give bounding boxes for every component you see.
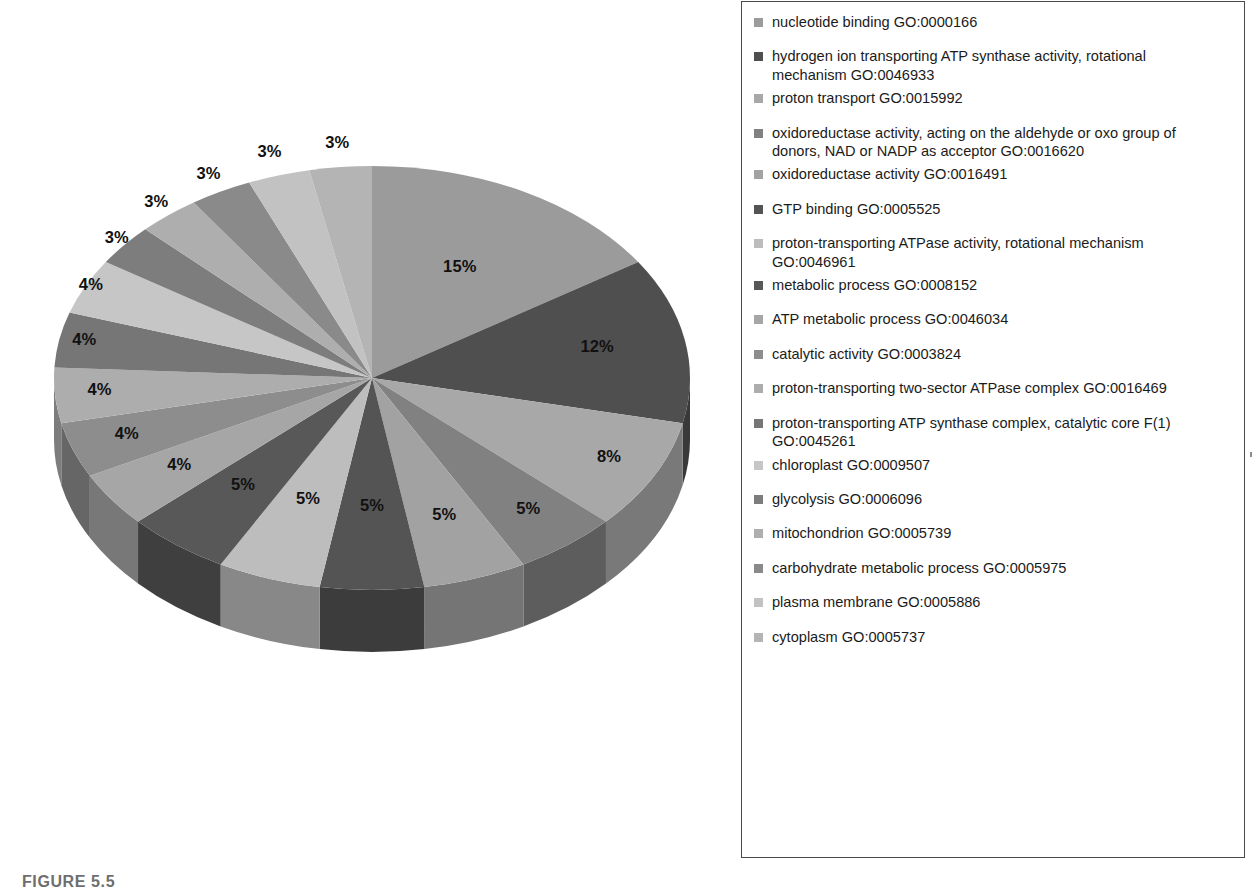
legend-item: cytoplasm GO:0005737 [754,628,1234,646]
pie-slice-side [320,587,425,652]
legend-color-swatch-icon [754,564,763,573]
legend-item-label: proton-transporting ATP synthase complex… [772,414,1224,451]
legend-item: mitochondrion GO:0005739 [754,524,1234,542]
legend-color-swatch-icon [754,18,763,27]
legend-color-swatch-icon [754,239,763,248]
legend-item: proton transport GO:0015992 [754,89,1234,107]
legend-item: oxidoreductase activity GO:0016491 [754,165,1234,183]
legend-list: nucleotide binding GO:0000166hydrogen io… [754,13,1234,662]
legend-color-swatch-icon [754,281,763,290]
legend-item-label: GTP binding GO:0005525 [772,200,940,218]
legend-item: nucleotide binding GO:0000166 [754,13,1234,31]
legend-item-label: nucleotide binding GO:0000166 [772,13,977,31]
legend-color-swatch-icon [754,384,763,393]
legend-item: chloroplast GO:0009507 [754,456,1234,474]
legend-item-label: proton transport GO:0015992 [772,89,963,107]
legend-item: plasma membrane GO:0005886 [754,593,1234,611]
pie-top-faces [54,166,690,590]
legend-item-label: ATP metabolic process GO:0046034 [772,310,1008,328]
legend-item-label: chloroplast GO:0009507 [772,456,930,474]
legend-item-label: mitochondrion GO:0005739 [772,524,951,542]
figure-caption: FIGURE 5.5 [22,873,115,891]
legend-item-label: catalytic activity GO:0003824 [772,345,961,363]
legend-item: catalytic activity GO:0003824 [754,345,1234,363]
legend-item: GTP binding GO:0005525 [754,200,1234,218]
legend-item-label: proton-transporting ATPase activity, rot… [772,234,1224,271]
legend-item: proton-transporting ATPase activity, rot… [754,234,1234,271]
legend-color-swatch-icon [754,94,763,103]
legend-item: ATP metabolic process GO:0046034 [754,310,1234,328]
legend-box: nucleotide binding GO:0000166hydrogen io… [741,1,1245,858]
page-artifact-speck [1250,452,1252,457]
legend-color-swatch-icon [754,170,763,179]
legend-item: hydrogen ion transporting ATP synthase a… [754,47,1234,84]
legend-item: proton-transporting ATP synthase complex… [754,414,1234,451]
legend-color-swatch-icon [754,633,763,642]
pie-chart-panel: 15%12%8%5%5%5%5%5%4%4%4%4%4%3%3%3%3%3% [0,0,740,860]
legend-item-label: oxidoreductase activity GO:0016491 [772,165,1007,183]
legend-item-label: oxidoreductase activity, acting on the a… [772,124,1224,161]
legend-item: oxidoreductase activity, acting on the a… [754,124,1234,161]
pie-chart-stage: 15%12%8%5%5%5%5%5%4%4%4%4%4%3%3%3%3%3% [0,0,740,740]
legend-color-swatch-icon [754,129,763,138]
legend-item: glycolysis GO:0006096 [754,490,1234,508]
figure-page: 15%12%8%5%5%5%5%5%4%4%4%4%4%3%3%3%3%3% n… [0,0,1256,892]
legend-color-swatch-icon [754,598,763,607]
legend-color-swatch-icon [754,350,763,359]
legend-color-swatch-icon [754,495,763,504]
legend-item-label: cytoplasm GO:0005737 [772,628,925,646]
legend-color-swatch-icon [754,52,763,61]
legend-color-swatch-icon [754,461,763,470]
legend-item-label: carbohydrate metabolic process GO:000597… [772,559,1066,577]
legend-item: carbohydrate metabolic process GO:000597… [754,559,1234,577]
legend-color-swatch-icon [754,205,763,214]
legend-color-swatch-icon [754,529,763,538]
legend-item: proton-transporting two-sector ATPase co… [754,379,1234,397]
legend-color-swatch-icon [754,315,763,324]
pie-chart-svg [0,0,740,740]
legend-item: metabolic process GO:0008152 [754,276,1234,294]
legend-item-label: proton-transporting two-sector ATPase co… [772,379,1167,397]
legend-item-label: plasma membrane GO:0005886 [772,593,980,611]
legend-item-label: glycolysis GO:0006096 [772,490,922,508]
legend-item-label: hydrogen ion transporting ATP synthase a… [772,47,1224,84]
legend-color-swatch-icon [754,419,763,428]
legend-item-label: metabolic process GO:0008152 [772,276,977,294]
